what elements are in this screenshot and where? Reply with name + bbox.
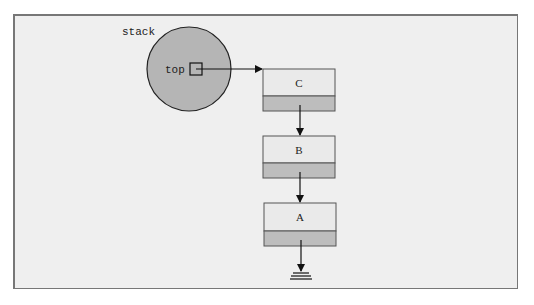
node-a-label: A — [296, 211, 304, 223]
node-b: B — [263, 136, 335, 178]
stack-label: stack — [122, 26, 155, 38]
node-c: C — [263, 69, 335, 111]
node-a: A — [264, 203, 336, 246]
node-c-label: C — [295, 77, 302, 89]
linked-stack-diagram: stack top C B A — [0, 0, 534, 305]
node-b-label: B — [295, 144, 302, 156]
top-field-label: top — [165, 64, 185, 76]
null-ground-icon — [290, 273, 312, 279]
